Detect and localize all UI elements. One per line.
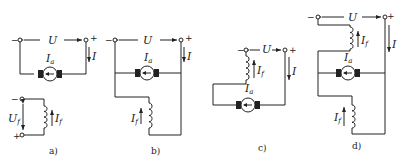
- panel-d-compound-excited: U − + If Ia If I d): [307, 11, 397, 151]
- field-minus-sign: −: [11, 94, 19, 104]
- armature-current-label: Ia: [343, 51, 353, 65]
- terminal-plus: [179, 38, 183, 42]
- field-current-label: If: [54, 112, 63, 126]
- terminal-plus: [84, 38, 88, 42]
- panel-label-a: a): [49, 146, 58, 156]
- terminal-minus: [316, 15, 320, 19]
- field-terminal-plus: [20, 133, 24, 137]
- supply-voltage-label: U: [48, 34, 58, 47]
- series-field-current-label: If: [360, 34, 369, 48]
- field-wires: [24, 99, 44, 135]
- panel-label-c: c): [258, 143, 267, 153]
- supply-voltage-label: U: [262, 43, 272, 56]
- terminal-plus: [283, 48, 287, 52]
- armature-current-label: Ia: [45, 52, 55, 66]
- armature-motor-icon: [336, 66, 360, 80]
- minus-sign: −: [11, 35, 19, 45]
- panel-a-separately-excited: U − + Ia I − + Uf If a): [8, 33, 98, 156]
- dc-motor-connection-diagrams: U − + Ia I − + Uf If a) U − + Ia: [0, 0, 408, 163]
- field-coil-icon: [149, 103, 152, 128]
- armature-motor-icon: [135, 66, 159, 80]
- armature-current-label: Ia: [244, 82, 254, 96]
- armature-current-label: Ia: [143, 51, 153, 65]
- supply-voltage-label: U: [348, 11, 358, 24]
- plus-sign: +: [289, 45, 297, 55]
- supply-voltage-label: U: [143, 34, 153, 47]
- panel-label-b: b): [151, 146, 160, 156]
- minus-sign: −: [307, 12, 315, 22]
- shunt-field-current-label: If: [333, 111, 342, 125]
- field-coil-icon: [246, 56, 249, 80]
- plus-sign: +: [387, 11, 395, 21]
- minus-sign: −: [105, 35, 113, 45]
- field-current-label: If: [256, 64, 265, 78]
- line-current-label: I: [391, 38, 397, 51]
- line-current-label: I: [186, 50, 192, 63]
- field-coil-icon: [44, 106, 47, 128]
- minus-sign: −: [237, 45, 245, 55]
- terminal-plus: [383, 15, 387, 19]
- armature-motor-icon: [236, 98, 260, 112]
- line-current-label: I: [291, 65, 297, 78]
- plus-sign: +: [90, 33, 98, 43]
- shunt-field-coil-icon: [352, 105, 355, 128]
- series-field-coil-icon: [350, 27, 353, 49]
- plus-sign: +: [185, 33, 193, 43]
- armature-motor-icon: [38, 67, 62, 81]
- field-terminal-minus: [20, 97, 24, 101]
- panel-b-shunt-excited: U − + Ia If I b): [105, 33, 193, 156]
- line-current-label: I: [91, 50, 97, 63]
- field-plus-sign: +: [13, 131, 21, 141]
- terminal-minus: [18, 38, 22, 42]
- terminal-minus: [113, 38, 117, 42]
- terminal-minus: [244, 48, 248, 52]
- panel-label-d: d): [352, 141, 361, 151]
- field-voltage-label: Uf: [8, 112, 21, 126]
- field-current-label: If: [130, 112, 139, 126]
- panel-c-series-excited: U − + Ia If I c): [213, 43, 297, 153]
